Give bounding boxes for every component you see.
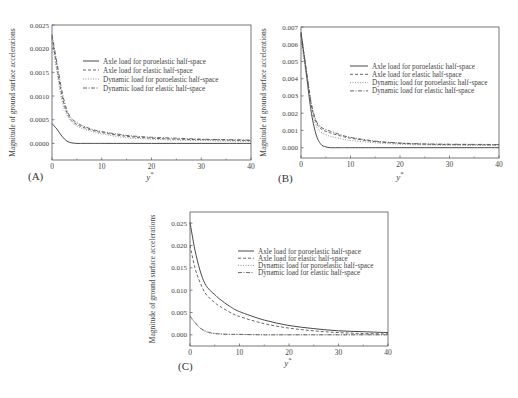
x-tick-label: 10 <box>347 160 355 169</box>
panel-label-a: (A) <box>28 170 43 182</box>
legend-label: Dynamic load for elastic half-space <box>372 87 474 95</box>
x-axis-label: y* <box>145 170 154 182</box>
panel-label-c: (C) <box>178 360 193 372</box>
legend-label: Axle load for elastic half-space <box>103 67 193 75</box>
legend-label: Dynamic load for poroelastic half-space <box>103 76 218 84</box>
y-tick-label: 0.002 <box>282 110 298 118</box>
y-tick-label: 0.0005 <box>30 116 50 124</box>
y-tick-label: 0.010 <box>171 287 187 295</box>
x-tick-label: 40 <box>495 160 503 169</box>
y-tick-label: 0.003 <box>282 92 298 100</box>
legend-label: Axle load for poroelastic half-space <box>372 63 475 71</box>
y-axis-label: Magnitude of ground surface acceleration… <box>148 215 157 343</box>
legend-label: Dynamic load for elastic half-space <box>103 85 205 93</box>
y-tick-label: 0.020 <box>171 242 187 250</box>
y-tick-label: 0.0010 <box>30 93 50 101</box>
plot-frame <box>52 25 251 160</box>
y-tick-label: 0.015 <box>171 264 187 272</box>
x-tick-label: 40 <box>384 348 392 357</box>
series-line-solid <box>190 222 388 332</box>
x-tick-label: 0 <box>188 348 192 357</box>
x-tick-label: 40 <box>247 162 255 171</box>
legend-label: Axle load for poroelastic half-space <box>103 58 206 66</box>
y-tick-label: 0.007 <box>282 24 298 32</box>
panel-label-b: (B) <box>278 172 293 184</box>
legend: Axle load for poroelastic half-spaceAxle… <box>238 248 373 278</box>
y-tick-label: 0.0025 <box>30 22 50 30</box>
x-tick-label: 10 <box>236 348 244 357</box>
x-tick-label: 10 <box>98 162 106 171</box>
y-tick-label: 0.005 <box>171 309 187 317</box>
y-tick-label: 0.005 <box>282 58 298 66</box>
y-tick-label: 0.006 <box>282 41 298 49</box>
y-axis-label: Magnitude of ground surface acceleration… <box>259 28 268 156</box>
legend-label: Axle load for elastic half-space <box>372 71 462 79</box>
y-tick-label: 0.025 <box>171 220 187 228</box>
x-tick-label: 30 <box>446 160 454 169</box>
y-tick-label: 0.000 <box>171 331 187 339</box>
x-axis-label: y* <box>283 356 292 368</box>
series-line-solid <box>52 124 251 144</box>
y-axis-label: Magnitude of ground surface acceleration… <box>8 28 17 156</box>
y-tick-label: 0.001 <box>282 127 298 135</box>
legend: Axle load for poroelastic half-spaceAxle… <box>350 63 487 96</box>
x-tick-label: 0 <box>50 162 54 171</box>
chart-panel-b: 0102030400.0000.0010.0020.0030.0040.0050… <box>259 24 503 183</box>
x-tick-label: 30 <box>335 348 343 357</box>
x-tick-label: 20 <box>396 160 404 169</box>
x-axis-label: y* <box>395 170 404 182</box>
chart-panel-c: 0102030400.0000.0050.0100.0150.0200.025M… <box>148 212 392 368</box>
legend-label: Dynamic load for poroelastic half-space <box>372 79 487 87</box>
legend: Axle load for poroelastic half-spaceAxle… <box>83 58 218 93</box>
x-tick-label: 0 <box>299 160 303 169</box>
y-tick-label: 0.0000 <box>30 140 50 148</box>
x-tick-label: 30 <box>198 162 206 171</box>
y-tick-label: 0.0015 <box>30 69 50 77</box>
y-tick-label: 0.000 <box>282 144 298 152</box>
chart-figure: 0102030400.00000.00050.00100.00150.00200… <box>0 0 518 398</box>
y-tick-label: 0.0020 <box>30 45 50 53</box>
legend-label: Dynamic load for elastic half-space <box>258 269 360 277</box>
y-tick-label: 0.004 <box>282 75 298 83</box>
chart-panel-a: 0102030400.00000.00050.00100.00150.00200… <box>8 22 255 183</box>
